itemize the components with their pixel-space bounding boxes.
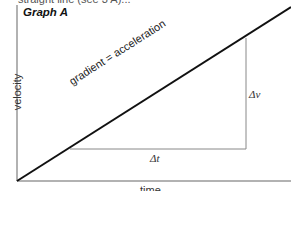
delta-t-label: Δt [150, 152, 160, 164]
delta-v-label: Δv [249, 88, 260, 100]
x-axis-label: time [140, 184, 161, 191]
y-axis-label: velocity [11, 67, 23, 117]
gradient-triangle [70, 38, 246, 149]
